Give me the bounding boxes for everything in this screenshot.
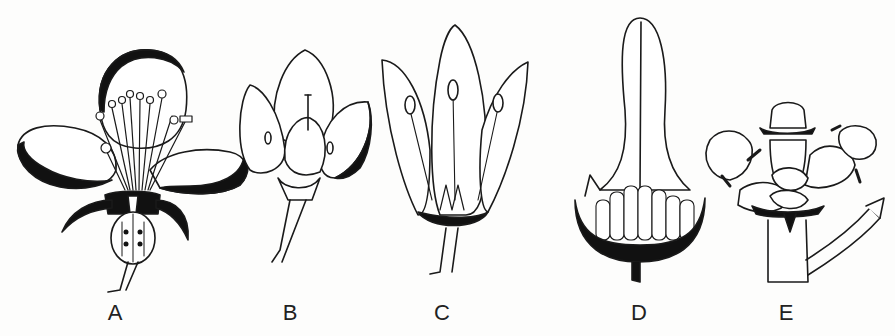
flower-a-drawing: [18, 50, 248, 292]
flower-e-drawing: [706, 103, 884, 283]
panel-label-c: C: [427, 300, 457, 326]
panel-label-b: B: [275, 300, 305, 326]
flower-figure: A B C D E: [0, 0, 895, 336]
panel-label-d: D: [624, 300, 654, 326]
flower-c-drawing: [382, 25, 528, 274]
panel-label-a: A: [100, 300, 130, 326]
panel-label-e: E: [771, 300, 801, 326]
flower-d-drawing: [575, 18, 705, 282]
flower-drawings: [0, 0, 895, 336]
flower-b-drawing: [240, 50, 371, 262]
